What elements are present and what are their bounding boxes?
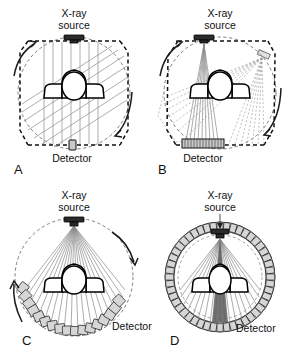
panel-a-source-label-line2: source xyxy=(58,19,90,31)
panel-a-detector-pair xyxy=(69,140,76,150)
panel-d-detector-cell xyxy=(165,280,174,287)
panel-d-detector-cell xyxy=(266,274,274,280)
panel-b-rotation-arrow-left xyxy=(160,44,180,76)
panel-b: X-ray source Detector B xyxy=(158,7,281,177)
panel-a-letter: A xyxy=(14,162,23,177)
panel-c-source-label-line1: X-ray xyxy=(61,189,87,201)
panel-d-detector-cell xyxy=(165,274,173,280)
panel-b-source-label-line1: X-ray xyxy=(207,7,233,19)
panel-c-rotation-arrow-right xyxy=(112,232,134,262)
panel-a-arrowhead-right xyxy=(115,130,122,137)
panel-d-detector-cell xyxy=(223,323,230,332)
panel-b-rays-dashed-right xyxy=(228,58,264,148)
panel-c-xray-source xyxy=(64,217,84,226)
panel-c-letter: C xyxy=(22,333,31,348)
panel-b-arrowhead-right xyxy=(264,129,271,136)
panel-a-xray-source xyxy=(64,35,84,43)
panel-d-detector-cell xyxy=(266,267,275,274)
panel-c-source-label-line2: source xyxy=(58,201,90,213)
panel-d-letter: D xyxy=(170,333,179,348)
panel-b-detector-array xyxy=(182,139,224,148)
panel-b-source-label-line2: source xyxy=(204,19,236,31)
panel-a-arrowhead-left xyxy=(30,41,36,47)
panel-b-detector-label-line1: Detector xyxy=(183,152,223,164)
panel-d-source-label-line2: source xyxy=(204,201,236,213)
panel-d: X-ray source Detector D xyxy=(165,189,276,348)
figure-canvas: X-ray source Detector A xyxy=(0,0,293,357)
panel-a: X-ray source Detector A xyxy=(14,7,132,177)
panel-d-detector-label-line1: Detector xyxy=(236,322,276,334)
panel-a-detector-label-line1: Detector xyxy=(52,152,92,164)
ct-generations-figure: X-ray source Detector A xyxy=(0,0,293,357)
panel-d-xray-source xyxy=(211,229,229,238)
panel-b-phantom xyxy=(190,70,250,100)
panel-c: X-ray source Detector C xyxy=(10,189,152,348)
panel-a-rotation-arrow-right xyxy=(117,92,132,134)
panel-a-rotation-arrow-left xyxy=(14,44,34,76)
panel-c-detector-label-line1: Detector xyxy=(112,320,152,332)
panel-a-source-label-line1: X-ray xyxy=(61,7,87,19)
panel-d-source-label-line1: X-ray xyxy=(207,189,233,201)
panel-b-letter: B xyxy=(158,162,167,177)
